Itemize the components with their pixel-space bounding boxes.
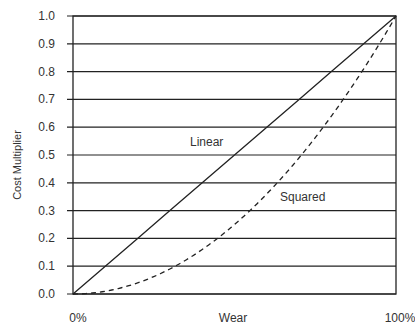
x-tick-100: 100% [385,311,415,325]
x-axis-label: Wear [219,311,247,325]
linear-annotation: Linear [190,135,223,149]
y-tick-label: 0.4 [38,176,55,190]
y-tick-label: 0.9 [38,37,55,51]
y-tick-label: 0.5 [38,148,55,162]
y-axis-ticks: 0.00.10.20.30.40.50.60.70.80.91.0 [38,9,55,301]
squared-annotation: Squared [280,190,325,204]
y-axis-label: Cost Multiplier [11,130,23,200]
y-tick-label: 0.0 [38,287,55,301]
y-tick-label: 0.7 [38,92,55,106]
y-tick-label: 1.0 [38,9,55,23]
y-tick-label: 0.2 [38,231,55,245]
y-tick-label: 0.6 [38,120,55,134]
cost-multiplier-chart: 0.00.10.20.30.40.50.60.70.80.91.0 Linear… [0,0,415,335]
y-tick-label: 0.3 [38,204,55,218]
y-tick-label: 0.8 [38,65,55,79]
y-tick-label: 0.1 [38,259,55,273]
x-tick-0: 0% [69,311,87,325]
